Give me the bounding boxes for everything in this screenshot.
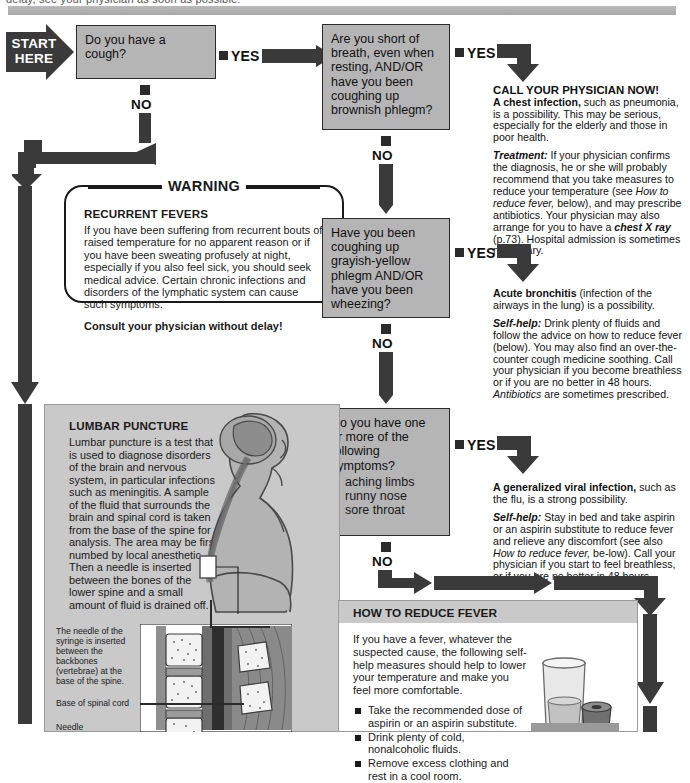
caption-needle-insertion: The needle of the syringe is inserted be… xyxy=(56,626,138,686)
list-item: runny nose xyxy=(332,489,441,503)
question-text: Are you short of breath, even when resti… xyxy=(323,25,449,117)
warning-footer: Consult your physician without delay! xyxy=(84,320,324,332)
yes-label-q4: YES xyxy=(467,437,496,453)
yes-label-q2: YES xyxy=(467,45,496,61)
no-marker-q1 xyxy=(140,85,150,95)
answer-lead: Acute bronchitis (infection of the airwa… xyxy=(493,288,685,312)
leader-line-spinal-cord xyxy=(140,703,244,705)
list-item: Remove excess clothing and rest in a coo… xyxy=(353,757,527,783)
arrow-q1-no-stem xyxy=(139,113,151,143)
vertebrae-detail-illustration xyxy=(140,624,292,732)
question-box-symptoms[interactable]: Do you have one or more of the following… xyxy=(322,408,450,536)
yes-label-q1: YES xyxy=(231,48,260,64)
how-to-reduce-fever-box: HOW TO REDUCE FEVER If you have a fever,… xyxy=(338,600,638,732)
no-marker-q3 xyxy=(381,324,391,334)
symptom-list: aching limbs runny nose sore throat xyxy=(323,475,449,518)
right-spine-bar-lower xyxy=(643,706,657,732)
answer-bronchitis: Acute bronchitis (infection of the airwa… xyxy=(493,288,685,407)
question-text: Do you have one or more of the following… xyxy=(323,409,449,475)
arrow-bottom-segment-1 xyxy=(434,572,552,594)
answer-lead: A generalized viral infection, such as t… xyxy=(493,482,685,506)
arrow-q3-no-stem xyxy=(379,352,393,404)
caption-base-of-spinal-cord: Base of spinal cord xyxy=(56,698,129,708)
no-label-q2: NO xyxy=(372,148,393,163)
yes-marker-q3 xyxy=(455,248,464,257)
question-box-cough[interactable]: Do you have a cough? xyxy=(76,25,216,79)
no-label-q3: NO xyxy=(372,336,393,351)
leader-line-needle-h xyxy=(210,626,270,628)
answer-selfhelp: Self-help: Drink plenty of fluids and fo… xyxy=(493,318,685,401)
list-item: Take the recommended dose of aspirin or … xyxy=(353,704,527,730)
list-item: Drink plenty of cold, nonalcoholic fluid… xyxy=(353,731,527,757)
yes-marker-q4 xyxy=(455,440,464,449)
header-band xyxy=(8,6,676,15)
yes-marker-q1 xyxy=(219,51,228,60)
warning-heading: RECURRENT FEVERS xyxy=(84,207,324,220)
left-spine-bar xyxy=(18,186,32,386)
no-label-q1: NO xyxy=(131,97,152,112)
start-here-arrow: START HERE xyxy=(6,24,74,80)
no-marker-q4 xyxy=(381,542,391,552)
warning-title: WARNING xyxy=(162,178,246,194)
start-here-label: START HERE xyxy=(11,36,57,66)
no-label-q4: NO xyxy=(372,554,393,569)
fever-box-heading: HOW TO REDUCE FEVER xyxy=(353,606,497,620)
left-spine-bar-lower xyxy=(18,404,32,724)
warning-body: If you have been suffering from recurren… xyxy=(84,224,324,311)
arrow-q2-yes xyxy=(497,42,553,82)
arrow-q3-yes xyxy=(497,242,553,282)
no-marker-q2 xyxy=(381,136,391,146)
leader-line-needle xyxy=(210,600,212,628)
seated-patient-illustration xyxy=(186,406,308,614)
glass-and-pills-illustration xyxy=(527,657,623,731)
arrow-left-down-head xyxy=(12,152,48,190)
list-item: sore throat xyxy=(332,503,441,517)
right-spine-bar xyxy=(643,614,657,686)
fever-box-list: Take the recommended dose of aspirin or … xyxy=(353,704,527,783)
arrow-q4-no-elbow xyxy=(372,570,432,598)
arrow-q2-no-stem xyxy=(379,164,393,214)
answer-lead: A chest infection, such as pneumonia, is… xyxy=(493,97,685,145)
question-box-grayish-phlegm[interactable]: Have you been coughing up grayish-yellow… xyxy=(322,218,450,318)
arrow-q4-yes xyxy=(497,434,553,474)
right-spine-arrowhead xyxy=(636,682,664,704)
left-spine-arrowhead xyxy=(11,382,39,404)
warning-box: WARNING RECURRENT FEVERS If you have bee… xyxy=(64,185,344,303)
question-text: Do you have a cough? xyxy=(77,26,215,61)
caption-needle-label: Needle xyxy=(56,722,83,732)
question-text: Have you been coughing up grayish-yellow… xyxy=(323,219,449,311)
yes-marker-q2 xyxy=(455,48,464,57)
answer-chest-infection: CALL YOUR PHYSICIAN NOW! A chest infecti… xyxy=(493,84,685,263)
fever-box-intro: If you have a fever, whatever the suspec… xyxy=(353,633,527,697)
list-item: aching limbs xyxy=(332,475,441,489)
question-box-short-of-breath[interactable]: Are you short of breath, even when resti… xyxy=(322,24,450,130)
yes-label-q3: YES xyxy=(467,245,496,261)
